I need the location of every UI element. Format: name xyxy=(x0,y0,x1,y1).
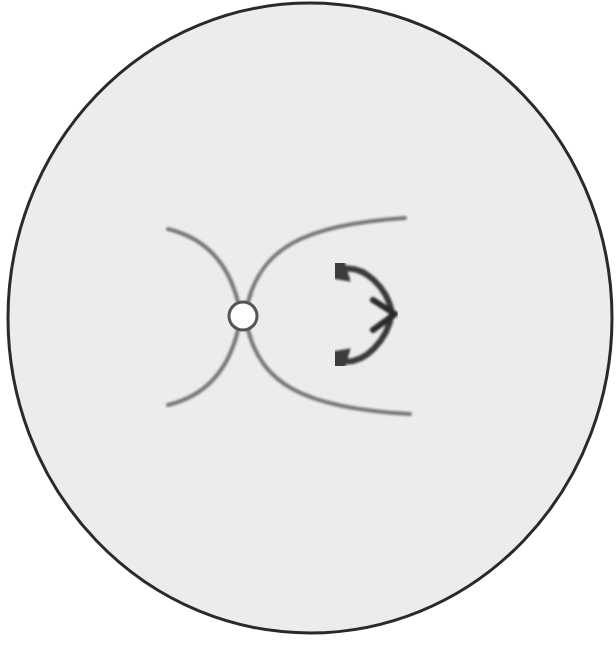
disk-outline xyxy=(8,3,612,633)
diagram-canvas xyxy=(0,0,616,648)
diagram-svg xyxy=(0,0,616,648)
pore-hole xyxy=(229,302,257,330)
